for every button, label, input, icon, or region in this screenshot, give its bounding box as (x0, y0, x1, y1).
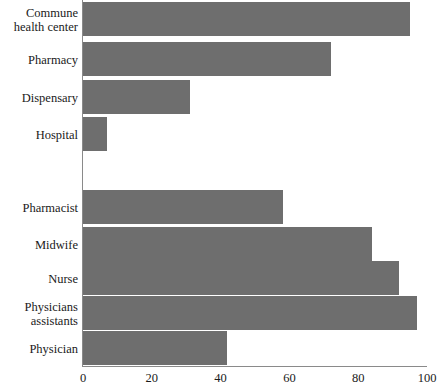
bar-commune-health-center (83, 2, 410, 36)
x-axis-tick-labels: 0 20 40 60 80 100 (0, 370, 442, 391)
x-tick-label: 20 (146, 370, 159, 386)
category-label-dispensary: Dispensary (0, 91, 78, 105)
x-tick-label: 60 (283, 370, 296, 386)
bar-hospital (83, 117, 107, 151)
category-label-pharmacist: Pharmacist (0, 201, 78, 215)
bar-nurse (83, 261, 399, 295)
category-label-nurse: Nurse (0, 272, 78, 286)
x-tick-label: 80 (352, 370, 365, 386)
category-label-pharmacy: Pharmacy (0, 53, 78, 67)
bar-pharmacist (83, 190, 283, 224)
x-tick-label: 0 (80, 370, 86, 386)
x-tick-label: 100 (418, 370, 437, 386)
category-label-physician: Physician (0, 342, 78, 356)
bar-pharmacy (83, 42, 331, 76)
category-label-commune-health-center: Commune health center (0, 6, 78, 34)
category-axis-labels: Commune health center Pharmacy Dispensar… (0, 0, 78, 366)
bar-midwife (83, 227, 372, 261)
bar-chart: Commune health center Pharmacy Dispensar… (0, 0, 442, 391)
x-axis-line (82, 366, 427, 367)
bar-physician (83, 331, 227, 365)
plot-area (83, 0, 427, 366)
category-label-physicians-assistants: Physicians assistants (0, 300, 78, 328)
bar-dispensary (83, 80, 190, 114)
category-label-midwife: Midwife (0, 238, 78, 252)
x-tick-label: 40 (214, 370, 227, 386)
bar-physicians-assistants (83, 296, 417, 330)
category-label-hospital: Hospital (0, 128, 78, 142)
